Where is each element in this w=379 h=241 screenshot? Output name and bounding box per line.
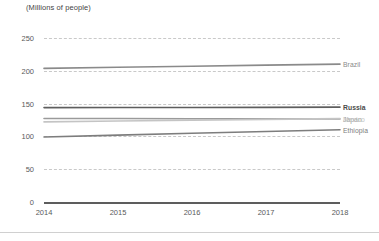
- legend-label-brazil: Brazil: [343, 61, 360, 68]
- x-tick-label: 2016: [172, 208, 212, 217]
- legend-label-russia: Russia: [343, 104, 366, 111]
- y-tick-label: 150: [4, 99, 34, 108]
- x-tick-label: 2014: [24, 208, 64, 217]
- y-tick-label: 200: [4, 66, 34, 75]
- series-layer: [44, 30, 340, 202]
- series-line-ethiopia: [44, 130, 340, 137]
- legend-label-ethiopia: Ethiopia: [343, 126, 368, 133]
- x-tick-label: 2015: [98, 208, 138, 217]
- x-tick-label: 2018: [320, 208, 360, 217]
- y-tick-label: 250: [4, 33, 34, 42]
- x-tick-label: 2017: [246, 208, 286, 217]
- y-tick-label: 100: [4, 132, 34, 141]
- x-axis-line: [44, 202, 340, 204]
- legend-label-mexico: Mexico: [343, 115, 365, 122]
- population-line-chart: (Millions of people) 250200150100500 201…: [0, 0, 379, 241]
- chart-axis-title: (Millions of people): [26, 3, 91, 12]
- y-tick-label: 0: [4, 198, 34, 207]
- bottom-divider: [0, 232, 379, 233]
- y-tick-label: 50: [4, 165, 34, 174]
- series-line-brazil: [44, 64, 340, 68]
